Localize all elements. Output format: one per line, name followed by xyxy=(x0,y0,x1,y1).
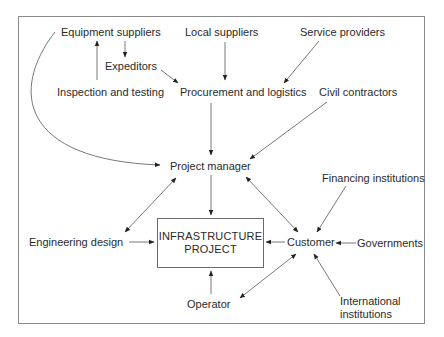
international-line2: institutions xyxy=(340,308,401,321)
node-customer: Customer xyxy=(287,236,335,249)
arrow-financing-to-customer xyxy=(317,186,346,232)
international-line1: International xyxy=(340,295,401,308)
node-equipment-suppliers: Equipment suppliers xyxy=(61,26,161,39)
arrow-service-to-procurement xyxy=(284,41,319,83)
node-inspection-testing: Inspection and testing xyxy=(57,86,164,99)
node-procurement-logistics: Procurement and logistics xyxy=(180,86,307,99)
arrow-expeditors-to-procurement xyxy=(161,70,178,83)
infrastructure-project-box: INFRASTRUCTURE PROJECT xyxy=(157,218,264,268)
arrow-international-to-customer xyxy=(314,254,340,296)
node-operator: Operator xyxy=(187,298,230,311)
node-local-suppliers: Local suppliers xyxy=(185,26,258,39)
node-international-institutions: International institutions xyxy=(340,295,401,321)
infrastructure-project-line2: PROJECT xyxy=(184,243,237,256)
node-financing-institutions: Financing institutions xyxy=(322,172,425,185)
arrow-civil-to-projectmanager xyxy=(250,102,327,159)
infrastructure-project-line1: INFRASTRUCTURE xyxy=(159,230,263,243)
node-expeditors: Expeditors xyxy=(105,60,157,73)
node-service-providers: Service providers xyxy=(300,26,385,39)
node-civil-contractors: Civil contractors xyxy=(319,86,397,99)
node-governments: Governments xyxy=(357,237,423,250)
node-project-manager: Project manager xyxy=(170,160,251,173)
node-engineering-design: Engineering design xyxy=(29,236,123,249)
